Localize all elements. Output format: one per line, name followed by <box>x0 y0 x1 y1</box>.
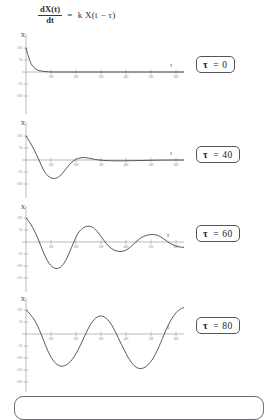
plot-panel-tau-60: 100 50 -50 -100 -150 100 200 300 400 500… <box>0 202 277 294</box>
y-tick-label: 50 <box>19 146 23 150</box>
y-tick-label: -50 <box>18 82 23 86</box>
tau-equals: = <box>210 321 222 331</box>
x-axis-label: t <box>167 232 169 238</box>
bottom-rounded-frame <box>14 396 264 420</box>
y-tick-label: 100 <box>17 134 22 138</box>
y-tick-label: 50 <box>19 228 23 232</box>
tau-equals: = <box>210 60 222 70</box>
x-tick-label: 600 <box>174 163 179 167</box>
y-axis-label: X <box>21 296 26 302</box>
x-axis-label: t <box>170 62 172 68</box>
x-tick-label: 200 <box>74 245 79 249</box>
x-tick-label: 200 <box>74 337 79 341</box>
tau-value: 80 <box>222 321 233 331</box>
x-axis-label: t <box>170 150 172 156</box>
x-tick-label: 300 <box>99 245 104 249</box>
plot-area-tau-80: 100 50 -50 -100 -150 -200 100 200 300 40… <box>8 294 188 394</box>
y-axis-label: X <box>21 32 26 38</box>
x-tick-label: 100 <box>49 245 54 249</box>
y-tick-label: 50 <box>19 320 23 324</box>
equals-sign: = <box>66 10 73 20</box>
tau-badge-60: τ = 60 <box>196 225 240 242</box>
tau-value: 0 <box>222 60 227 70</box>
x-tick-label: 600 <box>174 337 179 341</box>
curve-tau-60 <box>26 218 184 269</box>
x-tick-label: 600 <box>174 75 179 79</box>
tau-equals: = <box>210 229 222 239</box>
curve-tau-0 <box>26 48 184 72</box>
fraction-numerator: dX(t) <box>38 5 62 15</box>
tau-value: 60 <box>222 229 233 239</box>
plot-area-tau-60: 100 50 -50 -100 -150 100 200 300 400 500… <box>8 202 188 294</box>
x-tick-label: 300 <box>99 337 104 341</box>
plot-panel-tau-0: 100 50 -50 -100 100 200 300 400 500 600 … <box>0 30 277 118</box>
y-tick-label: 100 <box>17 308 22 312</box>
x-tick-label: 200 <box>74 163 79 167</box>
y-axis-label: X <box>21 120 26 126</box>
fraction-denominator: dt <box>46 16 54 25</box>
tau-value: 40 <box>222 150 233 160</box>
tau-badge-40: τ = 40 <box>196 146 240 163</box>
tau-symbol: τ <box>203 149 210 160</box>
x-tick-label: 500 <box>149 337 154 341</box>
y-tick-label: 50 <box>19 58 23 62</box>
x-tick-label: 400 <box>124 75 129 79</box>
y-axis-label: X <box>21 204 26 210</box>
y-tick-label: -50 <box>18 344 23 348</box>
x-tick-label: 500 <box>149 163 154 167</box>
chart-svg-tau-80: 100 50 -50 -100 -150 -200 100 200 300 40… <box>8 294 188 394</box>
tau-symbol: τ <box>203 320 210 331</box>
plot-area-tau-40: 100 50 -50 -100 100 200 300 400 500 600 … <box>8 118 188 202</box>
plot-panel-tau-40: 100 50 -50 -100 100 200 300 400 500 600 … <box>0 118 277 202</box>
x-tick-label: 500 <box>149 245 154 249</box>
x-tick-label: 100 <box>49 75 54 79</box>
x-tick-label: 100 <box>49 337 54 341</box>
x-tick-label: 500 <box>149 75 154 79</box>
equation-header: dX(t) dt = k X(t − τ) <box>38 2 198 28</box>
y-tick-label: -100 <box>16 182 22 186</box>
derivative-fraction: dX(t) dt <box>38 5 62 25</box>
x-tick-label: 200 <box>74 75 79 79</box>
plot-area-tau-0: 100 50 -50 -100 100 200 300 400 500 600 … <box>8 30 188 118</box>
plot-panel-tau-80: 100 50 -50 -100 -150 -200 100 200 300 40… <box>0 294 277 394</box>
tau-symbol: τ <box>203 59 210 70</box>
y-tick-label: -50 <box>18 170 23 174</box>
equation-right-hand-side: k X(t − τ) <box>78 10 116 20</box>
y-tick-label: -200 <box>16 380 22 384</box>
y-tick-label: -100 <box>16 94 22 98</box>
chart-svg-tau-40: 100 50 -50 -100 100 200 300 400 500 600 … <box>8 118 188 202</box>
x-tick-label: 300 <box>99 75 104 79</box>
x-tick-label: 400 <box>124 337 129 341</box>
y-tick-label: -150 <box>16 368 22 372</box>
tau-equals: = <box>210 150 222 160</box>
chart-svg-tau-60: 100 50 -50 -100 -150 100 200 300 400 500… <box>8 202 188 294</box>
x-tick-label: 400 <box>124 245 129 249</box>
tau-symbol: τ <box>203 228 210 239</box>
y-tick-label: 100 <box>17 216 22 220</box>
y-tick-label: -150 <box>16 276 22 280</box>
chart-svg-tau-0: 100 50 -50 -100 100 200 300 400 500 600 … <box>8 30 188 118</box>
x-tick-label: 400 <box>124 163 129 167</box>
curve-tau-40 <box>26 136 184 178</box>
tau-badge-80: τ = 80 <box>196 317 240 334</box>
x-tick-label: 300 <box>99 163 104 167</box>
y-tick-label: 100 <box>17 46 22 50</box>
tau-badge-0: τ = 0 <box>196 56 235 73</box>
y-tick-label: -100 <box>16 264 22 268</box>
y-tick-label: -100 <box>16 356 22 360</box>
x-tick-label: 100 <box>49 163 54 167</box>
y-tick-label: -50 <box>18 252 23 256</box>
